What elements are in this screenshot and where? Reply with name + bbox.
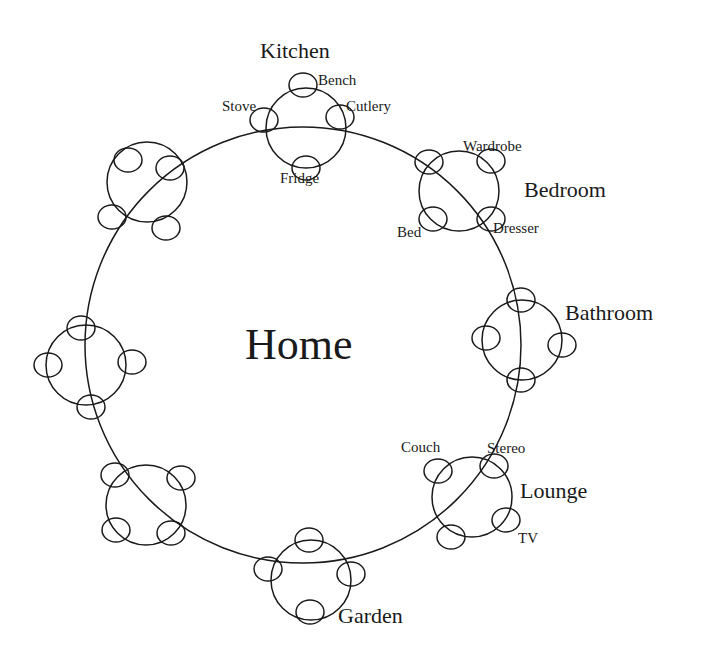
fridge-label: Fridge [280, 171, 319, 186]
bedroom-item-1-circle [415, 150, 443, 174]
couch-circle [424, 459, 452, 483]
dresser-label: Dresser [493, 221, 539, 236]
bathroom-item-2-circle [472, 326, 500, 350]
bed-circle [419, 207, 447, 231]
bed-label: Bed [397, 225, 421, 240]
bedroom-label: Bedroom [524, 179, 606, 201]
room-6-circle [106, 465, 186, 545]
bathroom-label: Bathroom [565, 302, 653, 324]
room-6-item-3-circle [102, 518, 130, 542]
home-label: Home [245, 323, 353, 367]
room-8-item-2-circle [156, 156, 184, 180]
lounge-label: Lounge [520, 480, 587, 502]
room-8-circle [107, 142, 187, 222]
room-6-item-1-circle [101, 463, 129, 487]
tv-label: TV [518, 531, 538, 546]
lounge-item-4-circle [437, 525, 465, 549]
room-8-item-4-circle [152, 216, 180, 240]
room-6-item-4-circle [157, 521, 185, 545]
couch-label: Couch [401, 440, 440, 455]
room-8-item-3-circle [98, 205, 126, 229]
tv-circle [492, 508, 520, 532]
bedroom-circle [419, 151, 499, 231]
room-7-item-2-circle [34, 353, 62, 377]
garden-label: Garden [338, 605, 403, 627]
room-7-item-3-circle [118, 350, 146, 374]
stove-label: Stove [222, 99, 256, 114]
lounge-circle [432, 457, 512, 537]
stereo-label: Stereo [487, 441, 525, 456]
room-8-item-1-circle [114, 148, 142, 172]
wardrobe-label: Wardrobe [463, 139, 522, 154]
kitchen-label: Kitchen [260, 40, 330, 62]
bench-label: Bench [318, 73, 356, 88]
bench-circle [289, 73, 317, 97]
cutlery-label: Cutlery [346, 99, 391, 114]
